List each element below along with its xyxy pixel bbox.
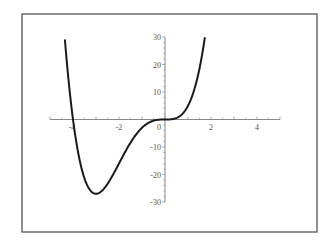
x-tick-label: 4 <box>255 123 259 132</box>
chart-canvas: -224-4302010-10-20-300 <box>0 0 324 242</box>
y-tick-label: 20 <box>153 61 161 70</box>
y-tick-label: 10 <box>153 88 161 97</box>
origin-label: 0 <box>157 123 161 132</box>
y-tick-label: -30 <box>150 198 161 207</box>
y-tick-label: -10 <box>150 143 161 152</box>
y-tick-label: -20 <box>150 171 161 180</box>
y-tick-label: 30 <box>153 33 161 42</box>
x-tick-label: 2 <box>209 123 213 132</box>
x-tick-label: -2 <box>116 123 123 132</box>
